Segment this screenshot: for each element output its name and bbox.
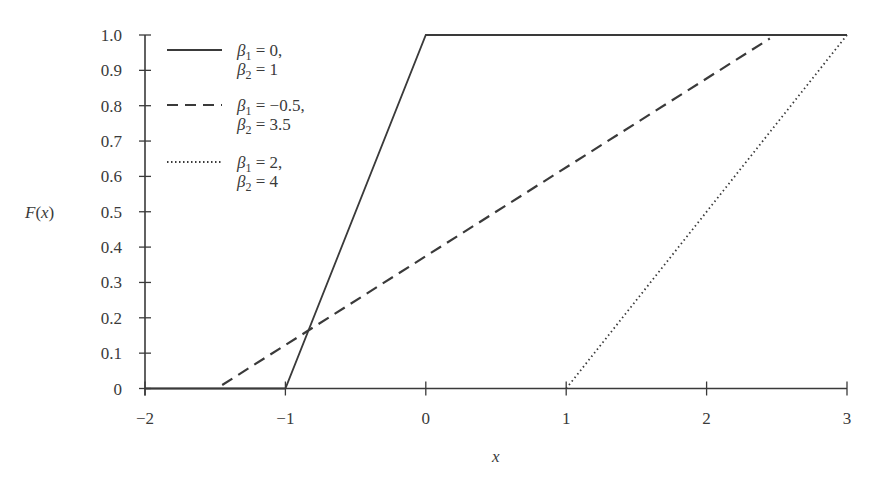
x-tick-label: 0 (422, 409, 431, 428)
y-tick-label: 0 (114, 380, 123, 399)
series-line-dashed (222, 39, 770, 386)
y-tick-label: 0.2 (101, 309, 122, 328)
y-tick-label: 0.9 (101, 61, 122, 80)
y-tick-label: 0.5 (101, 203, 122, 222)
series-lines (145, 35, 847, 389)
x-tick-label: 3 (843, 409, 852, 428)
legend: β1 = 0,β2 = 1β1 = −0.5,β2 = 3.5β1 = 2,β2… (167, 41, 305, 194)
y-tick-label: 0.3 (101, 273, 122, 292)
y-tick-label: 0.4 (101, 238, 123, 257)
y-tick-label: 0.6 (101, 167, 122, 186)
y-tick-label: 1.0 (101, 26, 122, 45)
y-tick-label: 0.7 (101, 132, 123, 151)
x-tick-label: 2 (702, 409, 711, 428)
legend-label: β2 = 1 (236, 60, 278, 82)
y-axis-label: F(x) (24, 203, 54, 222)
series-line-dotted (566, 35, 847, 389)
x-tick-label: −1 (276, 409, 294, 428)
x-axis-label: x (491, 447, 500, 466)
cdf-chart: 00.10.20.30.40.50.60.70.80.91.0−2−10123 … (0, 0, 874, 488)
x-tick-label: −2 (136, 409, 154, 428)
legend-label: β2 = 4 (236, 172, 279, 194)
y-tick-label: 0.8 (101, 97, 122, 116)
x-tick-label: 1 (562, 409, 571, 428)
legend-label: β2 = 3.5 (236, 115, 291, 137)
y-tick-label: 0.1 (101, 344, 122, 363)
axes: 00.10.20.30.40.50.60.70.80.91.0−2−10123 (101, 26, 852, 428)
